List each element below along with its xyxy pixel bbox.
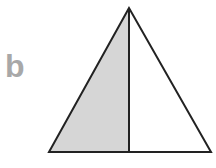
triangle-diagram (0, 0, 216, 168)
